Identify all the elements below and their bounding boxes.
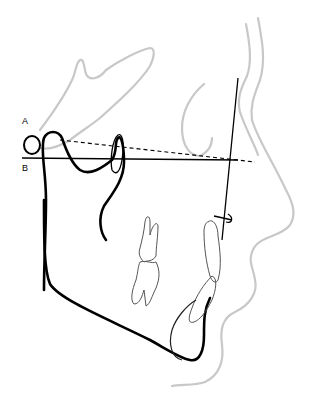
symphysis-outline [170,300,196,360]
label-a: A [22,116,28,126]
label-b: B [22,163,28,173]
incisor-marker [214,214,232,222]
lower-molar [132,261,159,306]
soft-tissue-profile-inner [239,24,258,155]
ear-rod-circle [24,136,40,154]
lower-incisor [189,276,216,322]
upper-incisor [204,221,220,282]
orbit-outline [182,84,212,156]
soft-tissue-profile-outer [172,18,293,386]
solid-reference-line [22,158,238,160]
mandible-lower-border [44,200,210,360]
upper-molar [139,217,158,262]
cephalometric-tracing [0,0,310,398]
